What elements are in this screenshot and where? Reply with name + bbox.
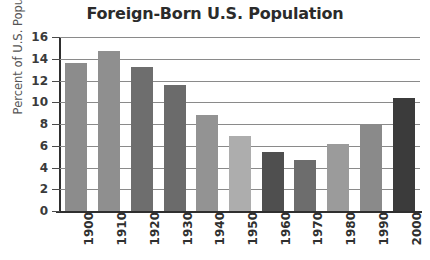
x-axis-tick-label: 1950 — [246, 212, 260, 256]
y-axis-tick-label: 0 — [18, 205, 48, 217]
x-axis-tick-label: 1970 — [311, 212, 325, 256]
bar — [131, 67, 153, 211]
y-axis-tick — [52, 168, 60, 169]
x-axis-tick-label: 1930 — [181, 212, 195, 256]
bar — [65, 63, 87, 211]
y-axis-tick-label: 16 — [18, 31, 48, 43]
x-axis-tick-label: 1920 — [148, 212, 162, 256]
y-axis-tick-label: 8 — [18, 118, 48, 130]
bar — [229, 136, 251, 211]
bar — [360, 125, 382, 211]
bar — [393, 98, 415, 211]
bar — [98, 51, 120, 211]
y-axis-tick — [52, 124, 60, 125]
bar — [294, 160, 316, 211]
bar — [262, 152, 284, 211]
y-axis-tick-label: 12 — [18, 75, 48, 87]
bar — [327, 144, 349, 211]
x-axis-tick-label: 1940 — [213, 212, 227, 256]
y-axis-tick-label: 14 — [18, 53, 48, 65]
x-axis-line — [56, 211, 422, 213]
y-axis-tick-label: 10 — [18, 96, 48, 108]
chart-title: Foreign-Born U.S. Population — [0, 4, 430, 23]
x-axis-tick-label: 2000 — [410, 212, 424, 256]
y-axis-tick-label: 6 — [18, 140, 48, 152]
y-axis-tick — [52, 102, 60, 103]
chart-container: Foreign-Born U.S. Population Percent of … — [0, 0, 430, 260]
x-axis-tick-label: 1910 — [115, 212, 129, 256]
y-axis-tick — [52, 81, 60, 82]
y-axis-title: Percent of U.S. Population — [8, 0, 28, 131]
y-axis-tick — [52, 146, 60, 147]
x-axis-tick-label: 1900 — [82, 212, 96, 256]
y-axis-tick-label: 2 — [18, 183, 48, 195]
y-axis-tick-label: 4 — [18, 162, 48, 174]
x-axis-tick-label: 1990 — [377, 212, 391, 256]
y-axis-tick — [52, 189, 60, 190]
y-axis-tick — [52, 59, 60, 60]
y-axis-tick — [52, 37, 60, 38]
bar — [164, 85, 186, 211]
x-axis-tick-label: 1960 — [279, 212, 293, 256]
x-axis-tick-label: 1980 — [344, 212, 358, 256]
plot-area — [60, 37, 420, 211]
y-axis-tick — [52, 211, 60, 212]
bar — [196, 115, 218, 211]
gridline — [60, 37, 420, 38]
